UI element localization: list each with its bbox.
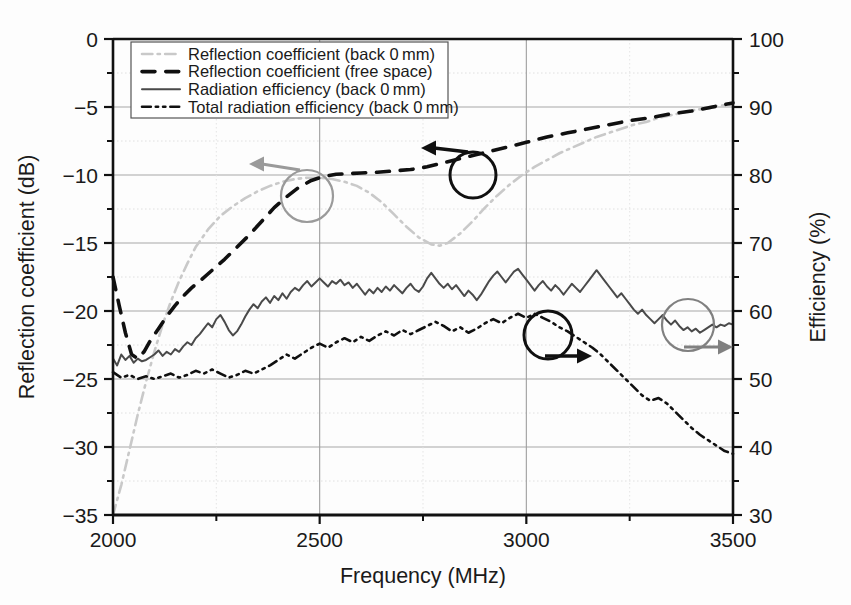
y2-tick-label: 30 bbox=[749, 504, 772, 527]
chart-figure: 0−5−10−15−20−25−30−351009080706050403020… bbox=[0, 0, 851, 605]
x-tick-label: 3000 bbox=[503, 528, 550, 551]
y-tick-label: 0 bbox=[86, 28, 98, 51]
y-tick-label: −15 bbox=[62, 232, 98, 255]
legend-label: Reflection coefficient (free space) bbox=[188, 62, 433, 80]
y2-tick-label: 40 bbox=[749, 436, 772, 459]
y2-tick-label: 50 bbox=[749, 368, 772, 391]
y2-tick-label: 90 bbox=[749, 96, 772, 119]
y-axis-left-title: Reflection coefficient (dB) bbox=[15, 155, 39, 400]
y-tick-label: −10 bbox=[62, 164, 98, 187]
x-tick-label: 3500 bbox=[710, 528, 757, 551]
legend-label: Total radiation efficiency (back 0 mm) bbox=[188, 98, 459, 116]
y-tick-label: −35 bbox=[62, 504, 98, 527]
legend-label: Radiation efficiency (back 0 mm) bbox=[188, 80, 426, 98]
y2-tick-label: 70 bbox=[749, 232, 772, 255]
y2-tick-label: 60 bbox=[749, 300, 772, 323]
y-tick-label: −30 bbox=[62, 436, 98, 459]
x-tick-label: 2500 bbox=[296, 528, 343, 551]
legend: Reflection coefficient (back 0 mm)Reflec… bbox=[131, 42, 459, 118]
x-axis-title: Frequency (MHz) bbox=[340, 564, 506, 588]
y-tick-label: −5 bbox=[74, 96, 98, 119]
x-tick-label: 2000 bbox=[90, 528, 137, 551]
y-tick-label: −25 bbox=[62, 368, 98, 391]
y-tick-label: −20 bbox=[62, 300, 98, 323]
y2-tick-label: 100 bbox=[749, 28, 784, 51]
legend-label: Reflection coefficient (back 0 mm) bbox=[188, 45, 435, 63]
legend-item-3: Total radiation efficiency (back 0 mm) bbox=[142, 98, 459, 116]
y2-tick-label: 80 bbox=[749, 164, 772, 187]
chart-svg: 0−5−10−15−20−25−30−351009080706050403020… bbox=[0, 0, 851, 605]
y-axis-right-title: Efficiency (%) bbox=[806, 211, 830, 342]
